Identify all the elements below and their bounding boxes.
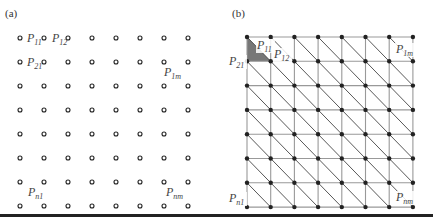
grid-point <box>42 204 46 208</box>
mesh-node <box>411 59 415 63</box>
diagonal-edge <box>366 61 390 85</box>
mesh-node <box>269 132 273 136</box>
grid-point <box>18 36 22 40</box>
grid-point <box>186 108 190 112</box>
mesh-node <box>292 83 296 87</box>
grid-point <box>162 180 166 184</box>
mesh-node <box>387 35 391 39</box>
mesh-node <box>387 181 391 185</box>
mesh-node <box>340 205 344 209</box>
panel-b-triangulated-mesh: P11P12P21P1mPn1Pnm <box>228 35 415 210</box>
grid-point <box>186 84 190 88</box>
diagonal-edge <box>318 86 342 110</box>
mesh-node <box>340 83 344 87</box>
grid-point <box>42 36 46 40</box>
diagonal-edge <box>247 183 271 207</box>
mesh-node <box>292 205 296 209</box>
grid-point <box>114 36 118 40</box>
figure-canvas: (a) (b) P11P12P21P1mPn1Pnm P11P12P21P1mP… <box>0 0 433 219</box>
grid-point <box>42 108 46 112</box>
diagonal-edge <box>247 86 271 110</box>
mesh-node <box>245 181 249 185</box>
grid-point <box>186 60 190 64</box>
mesh-node <box>269 83 273 87</box>
mesh-node <box>340 59 344 63</box>
grid-point <box>186 180 190 184</box>
mesh-node <box>245 132 249 136</box>
diagonal-edge <box>318 159 342 183</box>
diagonal-edge <box>318 110 342 134</box>
grid-point <box>138 84 142 88</box>
grid-point <box>90 60 94 64</box>
diagonal-edge <box>366 86 390 110</box>
mesh-node <box>316 205 320 209</box>
grid-point <box>66 84 70 88</box>
mesh-node <box>411 108 415 112</box>
diagonal-edge <box>294 37 318 61</box>
mesh-node <box>292 132 296 136</box>
diagonal-edge <box>366 134 390 158</box>
grid-point <box>18 132 22 136</box>
grid-point <box>138 156 142 160</box>
grid-point <box>42 84 46 88</box>
diagonal-edge <box>247 134 271 158</box>
grid-point <box>186 132 190 136</box>
panel-a-label: (a) <box>5 7 18 20</box>
diagonal-edge <box>342 37 366 61</box>
grid-point <box>138 180 142 184</box>
grid-point <box>66 108 70 112</box>
mesh-node <box>292 156 296 160</box>
mesh-node <box>411 83 415 87</box>
diagonal-edge <box>294 183 318 207</box>
grid-point <box>138 60 142 64</box>
grid-point <box>42 180 46 184</box>
grid-point <box>114 180 118 184</box>
diagonal-edge <box>271 134 295 158</box>
grid-point <box>162 36 166 40</box>
mesh-node <box>340 35 344 39</box>
grid-point <box>186 36 190 40</box>
grid-point <box>114 204 118 208</box>
mesh-node <box>292 35 296 39</box>
mesh-node <box>363 181 367 185</box>
grid-point <box>42 132 46 136</box>
grid-point <box>114 60 118 64</box>
grid-point <box>18 60 22 64</box>
point-label-P1m: P1m <box>163 65 181 81</box>
diagonal-edge <box>366 159 390 183</box>
diagonal-edge <box>271 86 295 110</box>
mesh-node <box>316 59 320 63</box>
diagonal-edge <box>342 61 366 85</box>
mesh-node <box>387 156 391 160</box>
mesh-node <box>363 205 367 209</box>
mesh-node <box>340 132 344 136</box>
diagonal-edge <box>318 183 342 207</box>
mesh-node <box>363 83 367 87</box>
grid-point <box>66 60 70 64</box>
mesh-node <box>363 108 367 112</box>
mesh-node <box>269 59 273 63</box>
diagonal-edge <box>389 86 413 110</box>
grid-point <box>90 180 94 184</box>
grid-point <box>90 132 94 136</box>
grid-point <box>186 204 190 208</box>
mesh-node <box>363 132 367 136</box>
mesh-node <box>245 156 249 160</box>
diagonal-edge <box>318 134 342 158</box>
grid-point <box>90 156 94 160</box>
grid-point <box>18 204 22 208</box>
diagonal-edge <box>247 159 271 183</box>
mesh-node <box>387 132 391 136</box>
grid-point <box>162 108 166 112</box>
mesh-node <box>316 83 320 87</box>
mesh-node <box>245 35 249 39</box>
grid-point <box>162 60 166 64</box>
mesh-node <box>316 35 320 39</box>
grid-point <box>18 84 22 88</box>
grid-point <box>18 156 22 160</box>
diagonal-edge <box>342 183 366 207</box>
mesh-node <box>411 35 415 39</box>
mesh-node <box>269 205 273 209</box>
grid-point <box>138 108 142 112</box>
diagonal-edge <box>342 86 366 110</box>
